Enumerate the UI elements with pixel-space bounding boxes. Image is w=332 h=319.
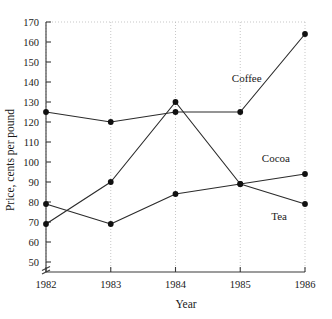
series-label-cocoa: Cocoa (262, 152, 290, 164)
data-point-cocoa-1983 (108, 221, 114, 227)
data-point-cocoa-1986 (302, 171, 308, 177)
y-tick-label: 150 (23, 57, 39, 68)
data-point-cocoa-1982 (43, 201, 49, 207)
y-tick-label: 100 (23, 157, 39, 168)
chart-plot-area: 5060708090100110120130140150160170 19821… (0, 0, 332, 319)
series-label-tea: Tea (271, 210, 287, 222)
y-tick-label: 70 (29, 217, 40, 228)
data-point-coffee-1985 (237, 109, 243, 115)
data-point-tea-1983 (108, 179, 114, 185)
data-point-coffee-1983 (108, 119, 114, 125)
data-point-coffee-1982 (43, 109, 49, 115)
y-tick-label: 110 (24, 137, 39, 148)
x-axis-title: Year (175, 298, 196, 310)
data-point-coffee-1984 (173, 109, 179, 115)
x-tick-label: 1986 (295, 279, 316, 290)
series-label-coffee: Coffee (232, 72, 262, 84)
data-point-tea-1982 (43, 221, 49, 227)
y-tick-label: 80 (29, 197, 40, 208)
x-tick-label: 1984 (165, 279, 187, 290)
data-point-coffee-1986 (302, 31, 308, 37)
data-point-cocoa-1984 (173, 191, 179, 197)
y-tick-label: 60 (29, 237, 40, 248)
data-point-tea-1985 (237, 181, 243, 187)
x-tick-label: 1983 (100, 279, 121, 290)
y-tick-label: 170 (23, 17, 39, 28)
data-point-tea-1986 (302, 201, 308, 207)
y-tick-label: 160 (23, 37, 39, 48)
y-tick-label: 120 (23, 117, 39, 128)
data-point-tea-1984 (173, 99, 179, 105)
y-tick-label: 50 (29, 257, 40, 268)
y-axis-title: Price, cents per pound (4, 109, 17, 211)
y-tick-label: 130 (23, 97, 39, 108)
line-chart: 5060708090100110120130140150160170 19821… (0, 0, 332, 319)
y-tick-label: 140 (23, 77, 39, 88)
x-tick-label: 1985 (230, 279, 251, 290)
y-tick-label: 90 (29, 177, 40, 188)
x-tick-label: 1982 (36, 279, 57, 290)
